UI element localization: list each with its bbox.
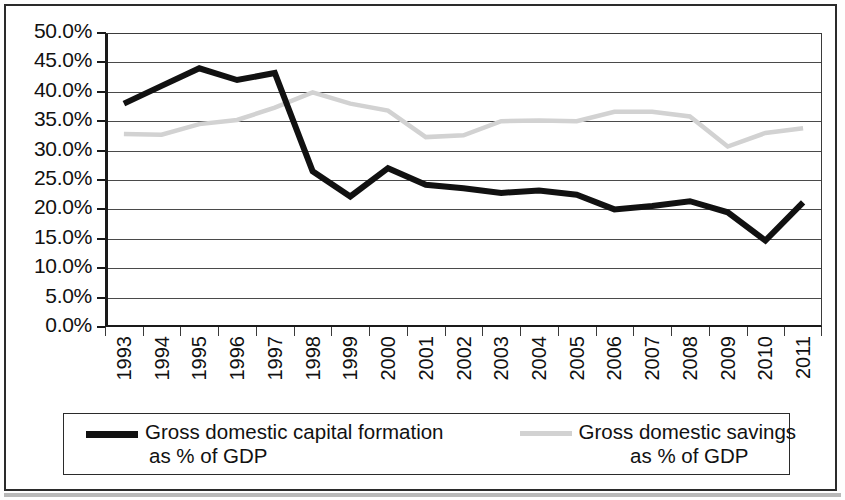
- y-axis-tick: [97, 150, 106, 152]
- gridline: [108, 298, 821, 299]
- gridline: [108, 239, 821, 240]
- x-axis-tick: [709, 327, 710, 336]
- x-axis-label: 1997: [264, 336, 287, 381]
- x-axis-label: 2005: [566, 336, 589, 381]
- x-axis-tick: [821, 327, 822, 336]
- x-axis-label: 1998: [302, 336, 325, 381]
- y-axis-tick: [97, 267, 106, 269]
- gridline: [108, 151, 821, 152]
- x-axis-label: 2001: [415, 336, 438, 381]
- legend-label-line2: as % of GDP: [579, 444, 797, 468]
- x-axis-tick: [218, 327, 219, 336]
- y-axis-tick: [97, 61, 106, 63]
- x-axis-label: 1994: [151, 336, 174, 381]
- y-axis-label: 10.0%: [0, 254, 92, 278]
- y-axis-label: 45.0%: [0, 48, 92, 72]
- y-axis-tick: [97, 32, 106, 34]
- line-chart: 50.0%45.0%40.0%35.0%30.0%25.0%20.0%15.0%…: [0, 0, 845, 410]
- x-axis-label: 2006: [603, 336, 626, 381]
- chart-legend: Gross domestic capital formation as % of…: [63, 413, 790, 475]
- legend-label-line1: Gross domestic capital formation: [145, 420, 444, 443]
- chart-screenshot: 50.0%45.0%40.0%35.0%30.0%25.0%20.0%15.0%…: [0, 0, 845, 500]
- x-axis-label: 2000: [377, 336, 400, 381]
- x-axis-label: 2010: [754, 336, 777, 381]
- x-axis-tick: [180, 327, 181, 336]
- x-axis-label: 2008: [679, 336, 702, 381]
- y-axis-label: 50.0%: [0, 19, 92, 43]
- y-axis-tick: [97, 179, 106, 181]
- gridline: [108, 180, 821, 181]
- legend-entry-savings: Gross domestic savings as % of GDP: [520, 420, 797, 468]
- y-axis-tick: [97, 120, 106, 122]
- y-axis-label: 25.0%: [0, 166, 92, 190]
- light-line-icon: [520, 431, 572, 436]
- x-axis-tick: [445, 327, 446, 336]
- x-axis-label: 2004: [528, 336, 551, 381]
- y-axis-tick: [97, 208, 106, 210]
- y-axis-label: 20.0%: [0, 195, 92, 219]
- x-axis-label: 2002: [453, 336, 476, 381]
- x-axis-label: 2007: [641, 336, 664, 381]
- y-axis-tick: [97, 91, 106, 93]
- x-axis-tick: [747, 327, 748, 336]
- legend-label-capital-formation: Gross domestic capital formation as % of…: [145, 420, 444, 468]
- x-axis-label: 2011: [792, 336, 815, 379]
- x-axis-tick: [558, 327, 559, 336]
- dark-line-icon: [86, 431, 138, 438]
- gridline: [108, 268, 821, 269]
- x-axis-tick: [633, 327, 634, 336]
- gridline: [108, 62, 821, 63]
- legend-label-savings: Gross domestic savings as % of GDP: [579, 420, 797, 468]
- y-axis-label: 5.0%: [0, 284, 92, 308]
- x-axis-label: 1993: [113, 336, 136, 381]
- x-axis-tick: [143, 327, 144, 336]
- y-axis-label: 35.0%: [0, 107, 92, 131]
- x-axis-tick: [482, 327, 483, 336]
- legend-label-line1: Gross domestic savings: [579, 420, 797, 443]
- x-axis-tick: [331, 327, 332, 336]
- y-axis-label: 40.0%: [0, 78, 92, 102]
- x-axis-label: 1999: [339, 336, 362, 381]
- y-axis-tick: [97, 297, 106, 299]
- x-axis-tick: [520, 327, 521, 336]
- x-axis-tick: [294, 327, 295, 336]
- gridline: [108, 121, 821, 122]
- gridline: [108, 92, 821, 93]
- x-axis-tick: [105, 327, 106, 336]
- legend-entry-capital-formation: Gross domestic capital formation as % of…: [86, 420, 444, 468]
- x-axis-label: 2003: [490, 336, 513, 381]
- gridline: [108, 209, 821, 210]
- x-axis-tick: [784, 327, 785, 336]
- x-axis-label: 1996: [226, 336, 249, 381]
- x-axis-tick: [256, 327, 257, 336]
- x-axis-tick: [407, 327, 408, 336]
- page-edge-shadow: [4, 493, 841, 497]
- y-axis-label: 0.0%: [0, 313, 92, 337]
- x-axis-tick: [671, 327, 672, 336]
- x-axis-tick: [596, 327, 597, 336]
- x-axis-label: 2009: [717, 336, 740, 381]
- y-axis-label: 15.0%: [0, 225, 92, 249]
- x-axis-tick: [369, 327, 370, 336]
- y-axis-label: 30.0%: [0, 137, 92, 161]
- plot-area: [105, 33, 822, 327]
- y-axis-tick: [97, 238, 106, 240]
- legend-label-line2: as % of GDP: [145, 444, 444, 468]
- x-axis-label: 1995: [188, 336, 211, 381]
